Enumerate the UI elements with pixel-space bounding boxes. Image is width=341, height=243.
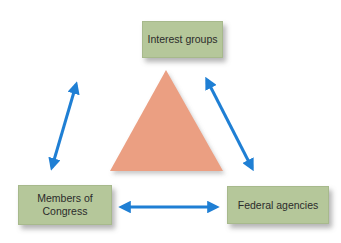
node-label: Interest groups <box>147 33 217 46</box>
iron-triangle-diagram: Interest groups Members of Congress Fede… <box>0 0 341 243</box>
node-label-line1: Members of <box>37 192 92 205</box>
node-label-line2: Congress <box>37 205 92 218</box>
center-triangle <box>110 70 223 171</box>
node-interest-groups: Interest groups <box>142 21 223 58</box>
node-members-of-congress: Members of Congress <box>18 185 112 225</box>
arrow-interest-congress <box>52 85 76 167</box>
node-label: Federal agencies <box>238 199 319 212</box>
node-federal-agencies: Federal agencies <box>227 186 329 224</box>
